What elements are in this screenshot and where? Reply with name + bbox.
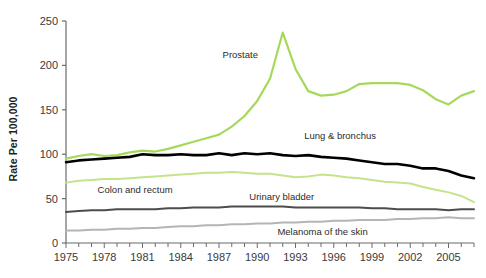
series-label-colon-and-rectum: Colon and rectum	[97, 184, 174, 195]
x-tick-label: 1990	[237, 251, 277, 263]
series-label-prostate: Prostate	[222, 49, 259, 60]
series-line-urinary-bladder	[66, 207, 474, 212]
y-tick-label: 0	[24, 237, 58, 249]
y-tick-label: 50	[24, 193, 58, 205]
y-tick-label: 100	[24, 148, 58, 160]
x-tick-label: 1978	[84, 251, 124, 263]
x-tick-label: 1996	[314, 251, 354, 263]
series-line-prostate	[66, 33, 474, 159]
y-tick-label: 200	[24, 59, 58, 71]
axis-layer	[62, 21, 474, 248]
series-label-lung-bronchus: Lung & bronchus	[303, 130, 377, 141]
cancer-incidence-line-chart: Rate Per 100,000 250200150100500 1975197…	[0, 0, 486, 278]
x-tick-label: 1981	[123, 251, 163, 263]
series-label-melanoma-of-the-skin: Melanoma of the skin	[276, 226, 368, 237]
x-tick-label: 1984	[161, 251, 201, 263]
y-tick-label: 250	[24, 15, 58, 27]
x-tick-label: 1993	[276, 251, 316, 263]
series-line-melanoma-of-the-skin	[66, 217, 474, 230]
series-label-urinary-bladder: Urinary bladder	[248, 191, 315, 202]
x-tick-label: 1975	[46, 251, 86, 263]
y-tick-label: 150	[24, 104, 58, 116]
plot-area	[0, 0, 486, 278]
x-tick-label: 1999	[352, 251, 392, 263]
x-tick-label: 2002	[390, 251, 430, 263]
x-tick-label: 1987	[199, 251, 239, 263]
x-tick-label: 2005	[429, 251, 469, 263]
